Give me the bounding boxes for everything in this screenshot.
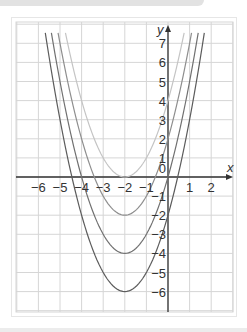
x-tick-label: −4	[74, 180, 89, 195]
x-tick-label: −2	[117, 180, 132, 195]
grid-lines	[16, 22, 233, 312]
y-tick-label: −1	[151, 189, 166, 204]
y-tick-label: 2	[159, 132, 166, 147]
parabola-graph: −6−5−4−3−2−1127654321−1−2−3−4−5−6 x y 0	[0, 0, 247, 332]
x-tick-label: 2	[208, 180, 215, 195]
x-tick-label: −6	[31, 180, 46, 195]
y-tick-label: 5	[159, 75, 166, 90]
y-tick-label: −6	[151, 285, 166, 300]
y-tick-label: 3	[159, 113, 166, 128]
y-tick-label: −3	[151, 227, 166, 242]
origin-label: 0	[159, 161, 166, 176]
x-axis-label: x	[226, 160, 234, 175]
y-tick-label: −5	[151, 266, 166, 281]
x-tick-label: 1	[186, 180, 193, 195]
y-tick-label: −2	[151, 208, 166, 223]
x-tick-label: −3	[96, 180, 111, 195]
x-tick-label: −5	[53, 180, 68, 195]
y-tick-label: 4	[159, 94, 166, 109]
y-tick-label: −4	[151, 246, 166, 261]
y-tick-label: 6	[159, 55, 166, 70]
y-axis-arrow-icon	[165, 25, 171, 32]
y-tick-label: 7	[159, 36, 166, 51]
bottom-decorative-band	[0, 328, 247, 332]
